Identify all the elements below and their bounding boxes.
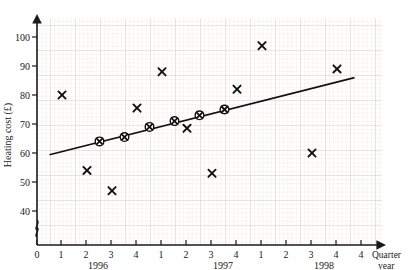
moving-average-point — [95, 137, 104, 146]
y-tick-label: 50 — [20, 177, 30, 188]
y-axis-title: Heating cost (£) — [2, 103, 14, 167]
moving-average-point — [220, 105, 229, 114]
y-tick-label: 90 — [20, 61, 30, 72]
chart-page: 100 90 80 70 60 50 40 Heating cost (£) — [0, 0, 412, 270]
x-tick-label: 3 — [109, 249, 114, 260]
x-tick-label: 4 — [234, 249, 239, 260]
x-tick-label: 1 — [259, 249, 264, 260]
x-tick-label: 4 — [334, 249, 339, 260]
x-year-labels: 1996 1997 1998 — [88, 260, 334, 270]
y-tick-labels: 100 90 80 70 60 50 40 — [15, 32, 30, 217]
moving-average-point — [145, 123, 154, 132]
year-label-1996: 1996 — [88, 260, 108, 270]
moving-average-point — [170, 117, 179, 126]
x-axis-title: Quarter — [372, 250, 402, 260]
year-label-1997: 1997 — [213, 260, 233, 270]
y-tick-label: 100 — [15, 32, 30, 43]
y-tick-label: 40 — [20, 206, 30, 217]
plot-grid — [37, 18, 382, 245]
y-tick-label: 60 — [20, 148, 30, 159]
y-tick-label: 80 — [20, 90, 30, 101]
y-tick-label: 70 — [20, 119, 30, 130]
moving-average-point — [120, 133, 129, 142]
x-tick-label: 4 — [134, 249, 139, 260]
x-tick-label: 2 — [284, 249, 289, 260]
moving-average-point — [195, 111, 204, 120]
x-tick-label: 4 — [359, 249, 364, 260]
year-label-1998: 1998 — [314, 260, 334, 270]
x-tick-label: 2 — [84, 249, 89, 260]
x-tick-label-origin: 0 — [35, 249, 40, 260]
x-axis-subtitle: year — [378, 261, 395, 270]
x-tick-label: 3 — [209, 249, 214, 260]
x-tick-label: 1 — [159, 249, 164, 260]
x-tick-label: 1 — [59, 249, 64, 260]
x-tick-label: 2 — [184, 249, 189, 260]
x-tick-label: 3 — [309, 249, 314, 260]
scatter-chart: 100 90 80 70 60 50 40 Heating cost (£) — [0, 0, 412, 270]
x-tick-labels: 0 1 2 3 4 1 2 3 4 1 2 3 4 4 — [35, 249, 364, 260]
